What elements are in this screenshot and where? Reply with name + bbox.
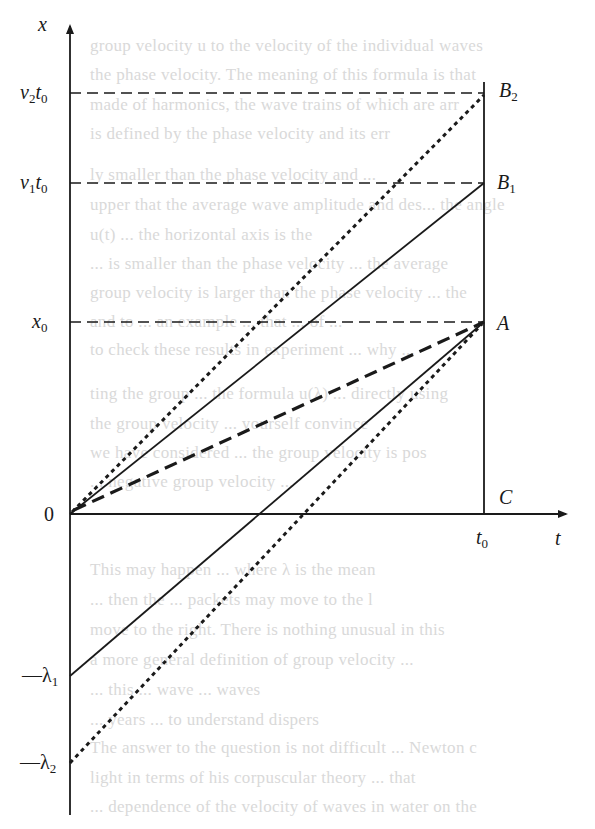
line-origin-to-A (74, 322, 484, 510)
line-lambda1-to-A (70, 322, 484, 676)
lambda1-label: —λ1 (22, 665, 58, 688)
x-axis-label: x (38, 14, 47, 34)
B2-label: B2 (499, 80, 518, 103)
x0-label: x0 (32, 311, 47, 334)
line-origin-to-B2 (72, 95, 484, 512)
wave-packet-spacetime-diagram: group velocity u to the velocity of the … (0, 0, 595, 829)
line-origin-to-B1 (70, 183, 484, 514)
A-label: A (497, 313, 509, 333)
v2t0-label: v2t0 (20, 82, 47, 105)
v1t0-label: v1t0 (20, 172, 47, 195)
C-label: C (499, 487, 512, 507)
origin-label: 0 (44, 504, 54, 524)
lambda2-label: —λ2 (20, 752, 56, 775)
t0-label: t0 (476, 527, 488, 550)
B1-label: B1 (497, 172, 516, 195)
t-axis-label: t (555, 528, 561, 548)
line-lambda2-to-A (70, 324, 482, 763)
diagram-canvas (0, 0, 595, 829)
